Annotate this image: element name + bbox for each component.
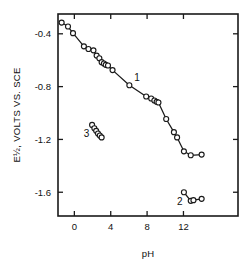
y-tick-label-3: -1.6 [35, 187, 51, 198]
x-tick-label-0: 0 [72, 221, 77, 232]
data-point [127, 83, 132, 88]
x-axis-title: pH [142, 248, 155, 259]
data-point [181, 190, 186, 195]
data-point [191, 198, 196, 203]
x-tick-label-3: 12 [178, 221, 189, 232]
x-axis-ticks [74, 14, 183, 216]
data-point [175, 135, 180, 140]
data-point [110, 68, 115, 73]
y-axis-title: E½, VOLTS VS. SCE [11, 67, 22, 162]
data-series-lines [62, 23, 202, 201]
data-point [181, 149, 186, 154]
x-tick-label-2: 8 [144, 221, 149, 232]
data-point [106, 63, 111, 68]
data-point [66, 24, 71, 29]
data-point [164, 116, 169, 121]
y-axis-tick-labels: -0.4-0.8-1.2-1.6 [35, 28, 51, 197]
x-tick-label-1: 4 [108, 221, 113, 232]
data-point [199, 152, 204, 157]
data-point [59, 20, 64, 25]
x-axis-tick-labels: 04812 [72, 221, 189, 232]
curve-label-2: 2 [177, 196, 183, 207]
y-tick-label-2: -1.2 [35, 134, 51, 145]
series-line-1 [62, 23, 202, 156]
data-point [91, 48, 96, 53]
y-tick-label-0: -0.4 [35, 28, 51, 39]
curve-label-1: 1 [134, 72, 140, 83]
curve-labels: 123 [84, 72, 183, 207]
curve-label-3: 3 [84, 128, 90, 139]
y-tick-label-1: -0.8 [35, 81, 51, 92]
data-point [99, 135, 104, 140]
data-point [199, 196, 204, 201]
data-series-markers [59, 20, 204, 203]
chart-figure: 04812 -0.4-0.8-1.2-1.6 123 pH E½, VOLTS … [0, 0, 250, 274]
chart-canvas: 04812 -0.4-0.8-1.2-1.6 123 pH E½, VOLTS … [0, 0, 250, 274]
y-axis-ticks [58, 34, 238, 192]
data-point [86, 46, 91, 51]
data-point [188, 153, 193, 158]
data-point [144, 94, 149, 99]
data-point [71, 31, 76, 36]
data-point [156, 100, 161, 105]
data-point [171, 130, 176, 135]
